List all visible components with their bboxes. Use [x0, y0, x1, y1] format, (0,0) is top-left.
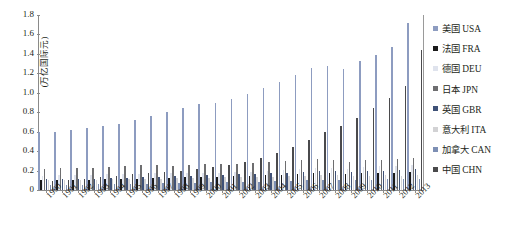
bar [407, 23, 409, 190]
bar-group [295, 15, 311, 190]
bar [359, 61, 361, 190]
legend-item-label: 日本 JPN [442, 82, 478, 96]
bar [343, 69, 345, 190]
y-axis-tick-label: 0.2 [8, 166, 34, 175]
y-axis-tick-label: 1.0 [8, 88, 34, 97]
bar [375, 55, 377, 190]
bar-group [327, 15, 343, 190]
bar-group [118, 15, 134, 190]
legend-item[interactable]: 意大利 ITA [433, 119, 508, 139]
x-axis-tick-group: 1990199119921993199419951996199719981999… [38, 190, 423, 232]
bar-group [70, 15, 86, 190]
legend-item[interactable]: 美国 USA [433, 18, 508, 38]
bar-group [38, 15, 54, 190]
legend-item-label: 中国 CHN [442, 162, 482, 176]
bar-group [102, 15, 118, 190]
bar [279, 82, 281, 190]
y-axis-tick-label: 1.4 [8, 49, 34, 58]
bar-group [407, 15, 423, 190]
legend-swatch-icon [433, 147, 438, 152]
legend-item[interactable]: 日本 JPN [433, 79, 508, 99]
bar-group [182, 15, 198, 190]
bar [389, 98, 391, 190]
legend-item[interactable]: 德国 DEU [433, 58, 508, 78]
legend-swatch-icon [433, 86, 438, 91]
legend-swatch-icon [433, 26, 438, 31]
legend-item-label: 德国 DEU [442, 61, 482, 75]
bar-group [375, 15, 391, 190]
bar [324, 132, 326, 190]
bar-group [166, 15, 182, 190]
bar [356, 118, 358, 190]
bar-group [54, 15, 70, 190]
legend-item-label: 意大利 ITA [442, 122, 486, 136]
bar-group [279, 15, 295, 190]
legend-item-label: 加拿大 CAN [442, 142, 491, 156]
y-axis-tick-label: 0.6 [8, 127, 34, 136]
bar-group [343, 15, 359, 190]
bar-group [231, 15, 247, 190]
bar [327, 66, 329, 190]
bar-group [198, 15, 214, 190]
y-axis-tick-label: 1.2 [8, 68, 34, 77]
legend-swatch-icon [433, 106, 438, 111]
bar-groups [38, 15, 423, 190]
bar-group [359, 15, 375, 190]
legend-item[interactable]: 中国 CHN [433, 159, 508, 179]
bar [340, 126, 342, 190]
bar-group [134, 15, 150, 190]
legend: 美国 USA法国 FRA德国 DEU日本 JPN英国 GBR意大利 ITA加拿大… [433, 18, 508, 180]
bar-group [86, 15, 102, 190]
y-axis-tick-label: 0.8 [8, 107, 34, 116]
y-axis-tick-label: 0 [8, 185, 34, 194]
legend-item-label: 美国 USA [442, 21, 481, 35]
bar-group [247, 15, 263, 190]
bar-group [311, 15, 327, 190]
y-axis-tick-label: 0.4 [8, 146, 34, 155]
legend-swatch-icon [433, 66, 438, 71]
legend-item[interactable]: 加拿大 CAN [433, 139, 508, 159]
legend-swatch-icon [433, 46, 438, 51]
legend-item[interactable]: 法国 FRA [433, 38, 508, 58]
bar-group [263, 15, 279, 190]
bar [421, 50, 423, 190]
y-axis-tick-label: 1.6 [8, 29, 34, 38]
legend-swatch-icon [433, 127, 438, 132]
legend-item-label: 法国 FRA [442, 41, 481, 55]
legend-item[interactable]: 英国 GBR [433, 99, 508, 119]
bar-chart: (万亿国际元) 1.81.61.41.21.00.80.60.40.20 199… [0, 0, 508, 232]
legend-swatch-icon [433, 167, 438, 172]
bar [391, 47, 393, 190]
plot-right-border [423, 15, 424, 191]
bar-group [150, 15, 166, 190]
bar-group [215, 15, 231, 190]
legend-item-label: 英国 GBR [442, 102, 482, 116]
bar [405, 86, 407, 190]
bar [295, 75, 297, 190]
bar [373, 108, 375, 190]
bar [311, 68, 313, 190]
y-axis-tick-label: 1.8 [8, 10, 34, 19]
bar-group [391, 15, 407, 190]
